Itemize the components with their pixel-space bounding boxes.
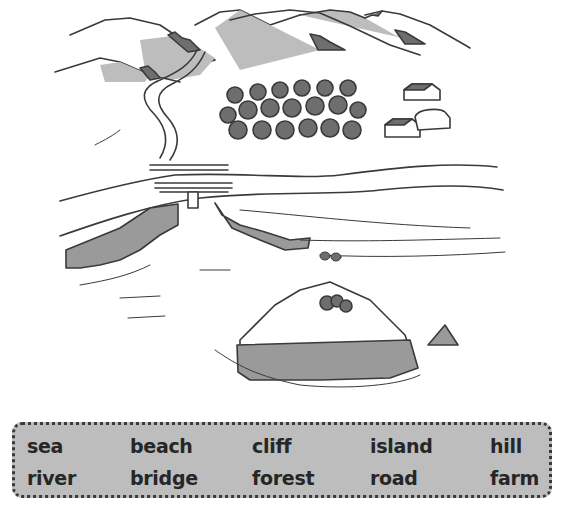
word-island: island xyxy=(370,437,432,456)
word-sea: sea xyxy=(27,437,63,456)
bridge xyxy=(150,165,232,208)
beach xyxy=(240,210,505,256)
word-bridge: bridge xyxy=(130,469,198,488)
island xyxy=(215,282,458,387)
word-river: river xyxy=(27,469,76,488)
word-forest: forest xyxy=(252,469,314,488)
word-hill: hill xyxy=(490,437,522,456)
word-road: road xyxy=(370,469,418,488)
word-beach: beach xyxy=(130,437,193,456)
word-bank: sea beach cliff island hill river bridge… xyxy=(12,422,552,498)
word-farm: farm xyxy=(490,469,539,488)
word-cliff: cliff xyxy=(252,437,291,456)
hills xyxy=(55,10,470,82)
forest xyxy=(220,80,366,139)
farm xyxy=(385,84,450,137)
landscape-illustration xyxy=(0,0,565,415)
